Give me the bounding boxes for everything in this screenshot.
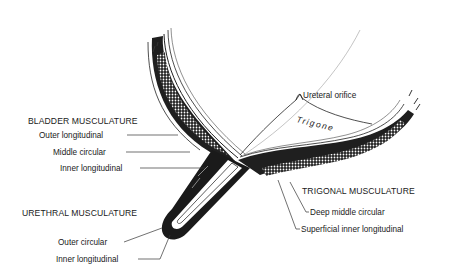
trigonal-musculature-heading: TRIGONAL MUSCULATURE [302, 186, 415, 196]
urethra [162, 150, 250, 240]
trigonal-deep-middle-circular-label: Deep middle circular [310, 208, 385, 217]
bladder-inner-longitudinal-label: Inner longitudinal [60, 164, 123, 173]
leader-line [278, 180, 300, 229]
trigone-wall [238, 30, 420, 176]
leader-line [124, 228, 162, 242]
bladder-musculature-heading: BLADDER MUSCULATURE [28, 116, 138, 126]
bladder-wall [148, 28, 245, 162]
trigone-region-label: Trigone [296, 114, 336, 133]
ureteral-orifice-label: Ureteral orifice [303, 91, 357, 100]
trigonal-superficial-inner-longitudinal-label: Superficial inner longitudinal [301, 225, 404, 234]
urethral-inner-longitudinal-label: Inner longitudinal [56, 255, 119, 264]
bladder-musculature-diagram: BLADDER MUSCULATURE Outer longitudinal M… [0, 0, 456, 276]
urethral-musculature-heading: URETHRAL MUSCULATURE [22, 208, 137, 218]
urethral-outer-circular-label: Outer circular [58, 238, 107, 247]
leader-line [138, 235, 170, 259]
bladder-outer-longitudinal-label: Outer longitudinal [39, 131, 103, 140]
bladder-middle-circular-label: Middle circular [53, 148, 106, 157]
